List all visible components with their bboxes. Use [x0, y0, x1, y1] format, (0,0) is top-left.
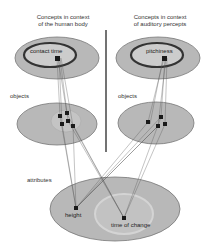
contact-time-node	[55, 56, 60, 61]
attributes-label: attributes	[27, 177, 52, 184]
diagram-canvas	[0, 0, 205, 250]
contact-time-label: contact time	[30, 48, 62, 55]
left-header: Concepts in context of the human body	[28, 14, 98, 28]
contact-time-ring	[24, 43, 76, 67]
right-object-node	[146, 120, 150, 124]
right-header-line-1: Concepts in context	[125, 14, 195, 21]
right-header-line-2: of auditory percepts	[125, 21, 195, 28]
left-object-node	[71, 124, 75, 128]
right-objects-label: objects	[118, 93, 137, 100]
left-object-node	[58, 114, 62, 118]
height-label: height	[65, 212, 81, 219]
left-object-node	[66, 119, 70, 123]
pitchiness-ring	[131, 43, 183, 67]
height-node	[74, 206, 78, 210]
left-header-line-1: Concepts in context	[28, 14, 98, 21]
pitchiness-label: pitchiness	[146, 48, 173, 55]
right-object-node	[163, 122, 167, 126]
right-objects-ellipse	[118, 102, 194, 144]
left-object-node	[60, 122, 64, 126]
right-header: Concepts in context of auditory percepts	[125, 14, 195, 28]
left-header-line-2: of the human body	[28, 21, 98, 28]
time-of-change-node	[122, 216, 126, 220]
left-objects-label: objects	[10, 93, 29, 100]
right-object-node	[156, 124, 160, 128]
left-object-node	[65, 111, 69, 115]
pitchiness-node	[162, 56, 167, 61]
right-object-node	[159, 115, 163, 119]
time-of-change-label: time of change	[111, 222, 150, 229]
